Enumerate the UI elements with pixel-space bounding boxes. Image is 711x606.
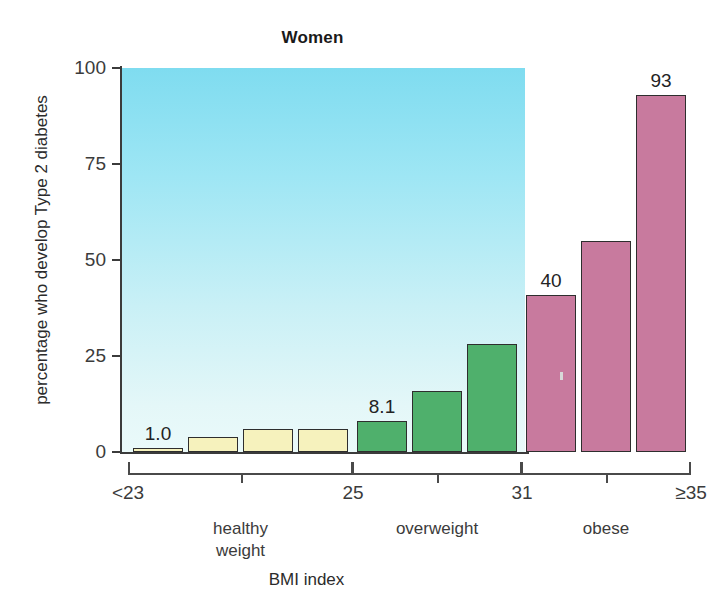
y-tick-mark [112,67,121,69]
group-label: obese [526,518,686,540]
bar-value-label: 40 [514,271,588,290]
group-label: overweight [357,518,517,540]
x-tick-label: 25 [325,483,381,502]
x-tick-label: <23 [100,483,156,502]
y-tick-mark [112,451,121,453]
group-label: healthy weight [161,518,321,562]
x-tick-label: ≥35 [663,483,711,502]
bar[interactable] [636,95,686,452]
bar-value-label: 93 [624,71,698,90]
chart-title: Women [0,28,583,48]
print-artifact [560,372,563,380]
group-bracket [521,462,691,475]
bar[interactable] [467,344,517,452]
y-tick-label: 100 [52,58,106,77]
bar[interactable] [243,429,293,452]
group-bracket [352,462,522,475]
x-axis-line [120,452,529,454]
bracket-nub [241,475,243,483]
bar[interactable] [526,295,576,452]
bar-value-label: 8.1 [345,397,419,416]
x-axis-title-text: BMI index [269,570,345,590]
bracket-nub [606,475,608,483]
y-tick-label: 50 [52,250,106,269]
bar[interactable] [133,448,183,452]
bar[interactable] [581,241,631,452]
y-axis-title: percentage who develop Type 2 diabetes [32,55,52,445]
bar[interactable] [188,437,238,452]
y-tick-label: 0 [52,442,106,461]
bracket-nub [437,475,439,483]
bar[interactable] [298,429,348,452]
plot-area [122,68,525,452]
group-bracket [128,462,353,475]
bar[interactable] [357,421,407,452]
x-axis-title: BMI index [0,570,583,590]
y-tick-mark [112,355,121,357]
y-tick-label: 25 [52,346,106,365]
bar-value-label: 1.0 [121,424,195,443]
chart-title-text: Women [281,28,343,48]
x-tick-label: 31 [494,483,550,502]
y-tick-mark [112,163,121,165]
bar[interactable] [412,391,462,452]
y-tick-mark [112,259,121,261]
y-tick-label: 75 [52,154,106,173]
